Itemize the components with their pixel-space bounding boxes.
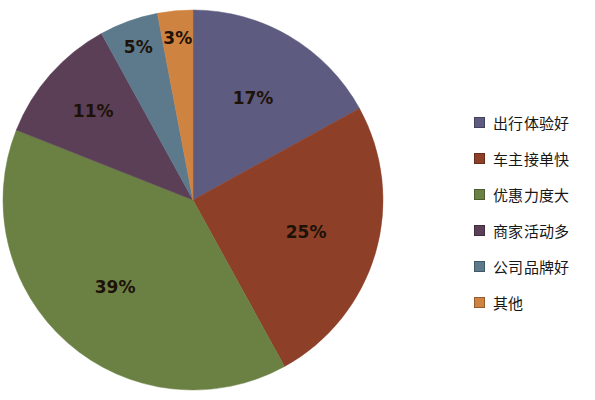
legend-item-label: 出行体验好 [493,112,570,133]
pie-slice-label: 25% [286,222,327,242]
legend-item-label: 商家活动多 [493,220,570,241]
legend-item-label: 公司品牌好 [493,256,570,277]
legend-color-swatch [474,117,485,128]
legend-item-label: 其他 [493,292,524,313]
legend-item[interactable]: 公司品牌好 [474,248,592,284]
legend-item[interactable]: 优惠力度大 [474,176,592,212]
pie-plot-area: 17%25%39%11%5%3% [0,0,400,400]
legend-item[interactable]: 车主接单快 [474,140,592,176]
legend-color-swatch [474,225,485,236]
pie-svg: 17%25%39%11%5%3% [0,0,400,400]
pie-chart: 17%25%39%11%5%3% 出行体验好车主接单快优惠力度大商家活动多公司品… [0,0,595,400]
legend-item-label: 优惠力度大 [493,184,570,205]
legend-color-swatch [474,297,485,308]
pie-slice-label: 3% [163,28,192,48]
legend-item[interactable]: 出行体验好 [474,104,592,140]
pie-slice-label: 5% [124,37,153,57]
pie-slice-label: 11% [73,101,114,121]
legend-color-swatch [474,153,485,164]
pie-slice-group [3,10,383,390]
legend-item-label: 车主接单快 [493,148,570,169]
chart-legend: 出行体验好车主接单快优惠力度大商家活动多公司品牌好其他 [474,104,592,320]
legend-color-swatch [474,261,485,272]
pie-slice-label: 17% [233,88,274,108]
legend-color-swatch [474,189,485,200]
legend-item[interactable]: 其他 [474,284,592,320]
pie-slice-label: 39% [95,277,136,297]
legend-item[interactable]: 商家活动多 [474,212,592,248]
